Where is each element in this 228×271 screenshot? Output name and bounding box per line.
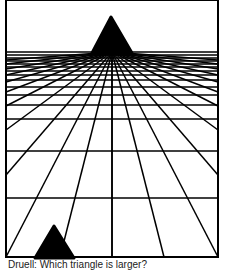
- converging-grid-line: [6, 52, 112, 257]
- converging-grid-line: [112, 52, 218, 257]
- figure-caption: Druell: Which triangle is larger?: [8, 259, 228, 271]
- far-triangle: [92, 17, 132, 53]
- near-triangle: [35, 226, 74, 258]
